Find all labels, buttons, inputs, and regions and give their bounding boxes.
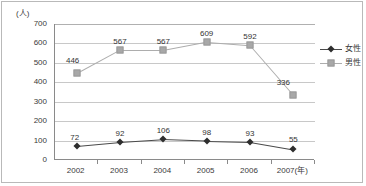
legend-item-female[interactable]: 女性: [320, 42, 361, 56]
x-axis-tick-mark: [97, 160, 98, 164]
y-axis-tick-label: 0: [7, 156, 47, 164]
square-marker-icon: [328, 60, 335, 67]
data-label: 98: [190, 129, 224, 137]
series-line-segment: [77, 142, 120, 147]
x-axis-tick-label: 2007(年): [262, 166, 322, 175]
gridline: [55, 102, 315, 103]
y-axis-tick-label: 400: [7, 78, 47, 86]
legend-key-female: [320, 44, 342, 54]
data-label: 55: [276, 136, 310, 144]
data-point-marker: [246, 138, 253, 145]
data-label: 336: [266, 79, 300, 87]
data-label: 92: [103, 130, 137, 138]
data-label: 567: [146, 38, 180, 46]
data-point-marker: [73, 142, 80, 149]
data-point-marker: [290, 91, 297, 98]
x-axis-tick-mark: [227, 160, 228, 164]
y-axis-tick-label: 600: [7, 39, 47, 47]
x-axis-tick-mark: [271, 160, 272, 164]
data-label: 609: [190, 30, 224, 38]
x-axis-tick-mark: [141, 160, 142, 164]
y-axis-unit-label: (人): [16, 10, 29, 18]
data-point-marker: [73, 70, 80, 77]
data-point-marker: [203, 137, 210, 144]
data-point-marker: [160, 46, 167, 53]
chart-figure: (人) 0100200300400500600700 2002200320042…: [1, 1, 363, 183]
diamond-marker-icon: [327, 45, 334, 52]
data-label: 106: [146, 127, 180, 135]
data-point-marker: [117, 46, 124, 53]
chart-legend: 女性 男性: [320, 42, 361, 70]
x-axis-tick-mark: [184, 160, 185, 164]
data-point-marker: [203, 38, 210, 45]
series-line-segment: [207, 141, 250, 143]
legend-label-female: 女性: [345, 44, 361, 54]
data-point-marker: [247, 41, 254, 48]
gridline: [55, 24, 315, 25]
y-axis-tick-label: 700: [7, 20, 47, 28]
data-label: 446: [56, 57, 90, 65]
y-axis-tick-label: 500: [7, 59, 47, 67]
series-line-segment: [120, 50, 163, 51]
legend-key-male: [320, 58, 342, 68]
y-axis-tick-label: 100: [7, 137, 47, 145]
legend-item-male[interactable]: 男性: [320, 56, 361, 70]
series-line-segment: [250, 45, 294, 95]
plot-area: 446567567609592336 7292106989355: [54, 24, 314, 160]
data-point-marker: [160, 136, 167, 143]
data-label: 72: [58, 134, 92, 142]
gridline: [55, 121, 315, 122]
y-axis-tick-label: 200: [7, 117, 47, 125]
x-axis-tick-mark: [314, 160, 315, 164]
data-label: 567: [103, 38, 137, 46]
legend-label-male: 男性: [345, 58, 361, 68]
gridline: [55, 43, 315, 44]
data-label: 93: [233, 130, 267, 138]
data-point-marker: [290, 146, 297, 153]
y-axis-tick-label: 300: [7, 98, 47, 106]
data-label: 592: [233, 33, 267, 41]
